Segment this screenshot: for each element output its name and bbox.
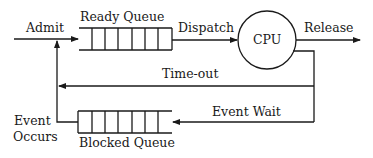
event-occurs-arrow	[57, 41, 78, 122]
event-wait-label: Event Wait	[212, 105, 281, 119]
blocked-queue-shape	[78, 111, 172, 133]
dispatch-label: Dispatch	[178, 21, 234, 35]
cpu-label: CPU	[253, 33, 281, 47]
event-occurs-label-line1: Event	[14, 114, 51, 128]
timeout-label: Time-out	[162, 67, 218, 81]
ready-queue-label: Ready Queue	[80, 10, 164, 24]
event-occurs-label-line2: Occurs	[13, 130, 58, 144]
admit-label: Admit	[26, 21, 64, 35]
release-label: Release	[304, 21, 353, 35]
blocked-queue-label: Blocked Queue	[79, 136, 175, 150]
ready-queue-shape	[79, 28, 172, 50]
